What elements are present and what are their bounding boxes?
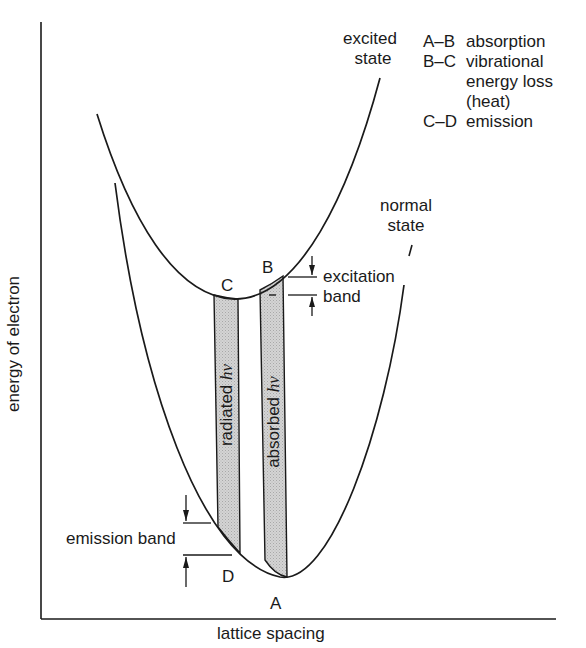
legend-value: energy loss — [466, 72, 553, 92]
point-label-a: A — [270, 594, 281, 614]
legend-key — [423, 92, 466, 112]
excited-state-label-line1: excited — [335, 29, 405, 49]
normal-state-curve — [115, 183, 404, 577]
excitation-band-label-line1: excitation — [323, 267, 395, 287]
legend-value: (heat) — [466, 92, 510, 112]
absorbed-hv-word: absorbed — [264, 397, 283, 468]
radiated-hv-label: radiated hν — [217, 340, 237, 470]
excited-state-curve — [97, 78, 380, 299]
legend-row: energy loss — [423, 72, 553, 92]
legend: A–B absorption B–C vibrational energy lo… — [423, 32, 553, 132]
point-label-d: D — [222, 567, 234, 587]
emission-arrowhead-down — [183, 510, 189, 521]
legend-value: emission — [466, 112, 533, 132]
emission-arrowhead-up — [183, 557, 189, 568]
y-axis-label: energy of electron — [4, 244, 24, 444]
excitation-band-label-line2: band — [323, 287, 395, 307]
legend-key: C–D — [423, 112, 466, 132]
legend-key: A–B — [423, 32, 466, 52]
legend-value: vibrational — [466, 52, 544, 72]
radiated-hv-symbol: hν — [217, 364, 236, 380]
point-label-c: C — [221, 276, 233, 296]
excited-state-label-line2: state — [335, 49, 405, 69]
excitation-arrowhead-up — [309, 297, 315, 307]
legend-value: absorption — [466, 32, 545, 52]
point-label-b: B — [262, 258, 273, 278]
emission-band-label: emission band — [66, 529, 176, 549]
legend-key: B–C — [423, 52, 466, 72]
excitation-band-label: excitation band — [323, 267, 395, 307]
legend-row: B–C vibrational — [423, 52, 553, 72]
absorbed-hv-label: absorbed hν — [264, 357, 284, 487]
legend-row: (heat) — [423, 92, 553, 112]
legend-row: A–B absorption — [423, 32, 553, 52]
normal-state-label-line1: normal — [366, 196, 446, 216]
normal-state-leader — [409, 245, 412, 256]
excitation-arrowhead-down — [309, 265, 315, 275]
x-axis-label: lattice spacing — [217, 624, 325, 644]
excited-state-label: excited state — [335, 29, 405, 69]
legend-row: C–D emission — [423, 112, 553, 132]
legend-key — [423, 72, 466, 92]
normal-state-label: normal state — [366, 196, 446, 236]
normal-state-label-line2: state — [366, 216, 446, 236]
radiated-hv-word: radiated — [217, 385, 236, 446]
absorbed-hv-symbol: hν — [264, 376, 283, 392]
